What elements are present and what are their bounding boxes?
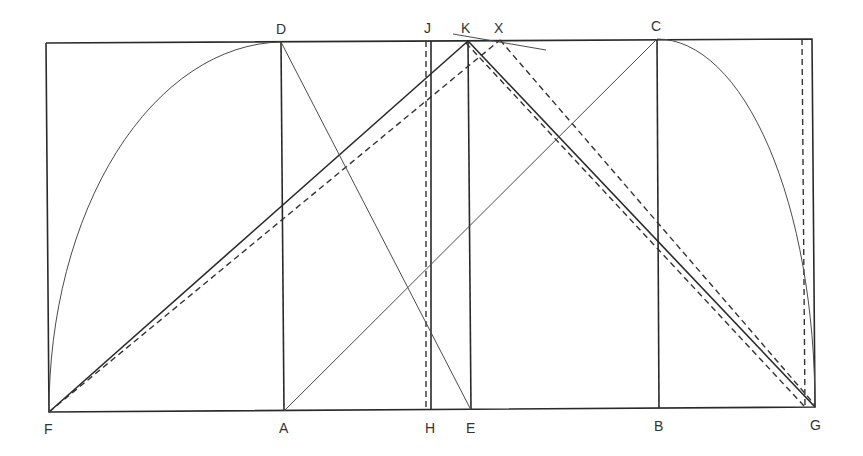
label-K: K xyxy=(461,20,471,36)
label-E: E xyxy=(466,420,475,436)
line-KG xyxy=(468,41,815,407)
label-X: X xyxy=(494,20,504,36)
arc-FD xyxy=(49,42,281,412)
line-DE xyxy=(281,42,471,410)
label-A: A xyxy=(279,420,289,436)
line-KG-dashed xyxy=(466,43,805,407)
label-F: F xyxy=(44,421,53,437)
label-J: J xyxy=(424,20,431,36)
line-FX-dashed xyxy=(49,40,500,412)
arc-CG xyxy=(657,39,815,407)
label-G: G xyxy=(810,417,821,433)
label-D: D xyxy=(276,21,286,37)
line-FK xyxy=(49,41,468,412)
label-C: C xyxy=(651,18,661,34)
line-right-dashed xyxy=(802,39,805,407)
label-H: H xyxy=(425,420,435,436)
line-DA xyxy=(281,42,284,411)
label-B: B xyxy=(654,418,663,434)
geometry-diagram: D J K X C F A H E B G xyxy=(0,0,863,456)
